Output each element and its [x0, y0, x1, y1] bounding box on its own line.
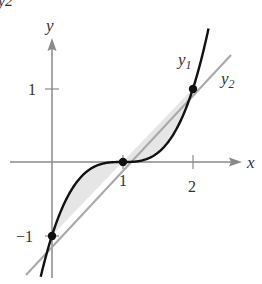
intersection-point-2-1 [189, 85, 197, 93]
y-tick-1: 1 [28, 81, 59, 98]
intersection-point-1-0 [119, 158, 127, 166]
x-tick-label-2: 2 [188, 178, 196, 195]
intersection-point-0-neg1 [48, 232, 56, 240]
shaded-region-left [52, 162, 123, 236]
y-tick-label-neg1: −1 [16, 228, 33, 245]
y-tick-label-1: 1 [28, 81, 36, 98]
shaded-region-right [123, 89, 194, 163]
function-graph: y2 x y 1 2 1 −1 y1 y2 [0, 0, 262, 284]
clipped-top-label: y2 [0, 0, 13, 10]
x-tick-2: 2 [188, 155, 196, 195]
curve-label-y2: y2 [219, 69, 235, 91]
curve-y2-line [26, 55, 231, 275]
y-axis-label: y [44, 16, 54, 35]
x-axis-label: x [246, 153, 255, 172]
curve-label-y1: y1 [176, 50, 192, 72]
